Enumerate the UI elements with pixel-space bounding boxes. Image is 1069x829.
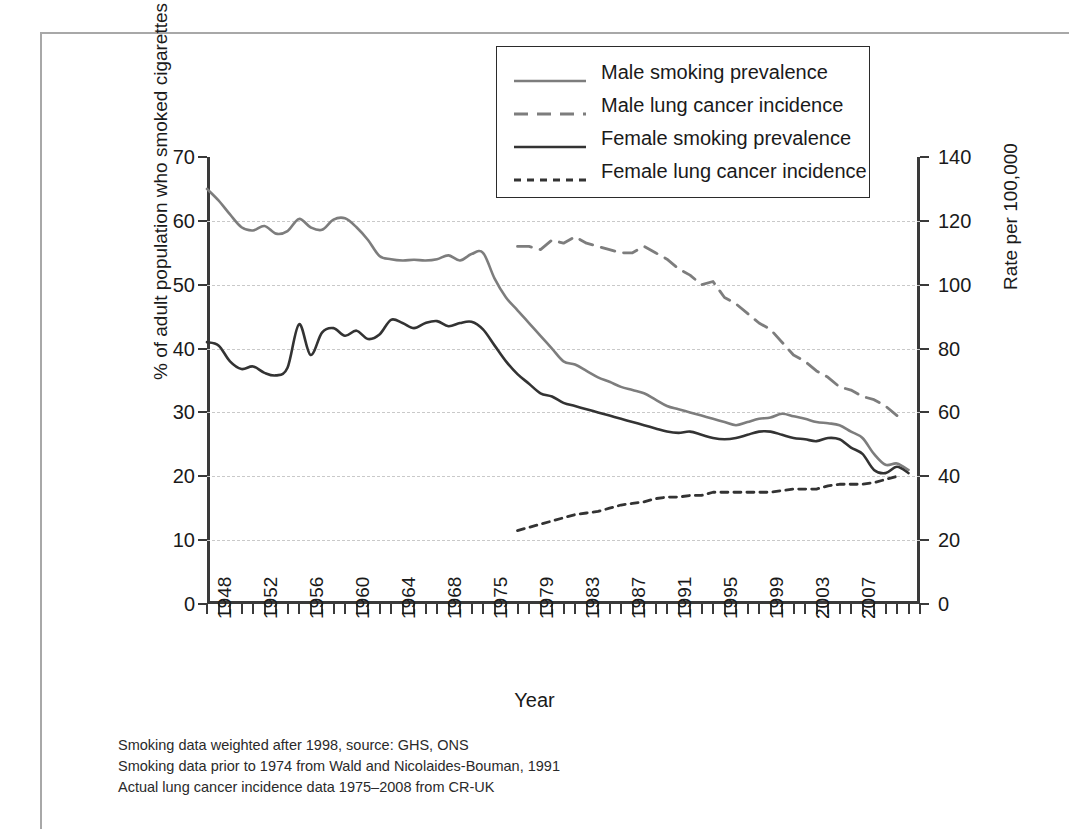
x-tick [287, 604, 289, 614]
x-tick [390, 604, 392, 614]
legend-item[interactable]: Female lung cancer incidence [497, 155, 869, 188]
x-tick [206, 604, 208, 614]
x-tick [436, 604, 438, 614]
y-tick-right [920, 156, 929, 158]
x-tick [252, 604, 254, 614]
x-tick [793, 604, 795, 614]
y-tick-label-right: 60 [938, 401, 960, 424]
y-tick-right [920, 603, 929, 605]
y-tick-left [198, 220, 207, 222]
x-tick [896, 604, 898, 614]
y-tick-right [920, 220, 929, 222]
y-tick-label-right: 140 [938, 146, 971, 169]
x-tick [241, 604, 243, 614]
y-tick-label-right: 20 [938, 529, 960, 552]
x-tick [333, 604, 335, 614]
y-tick-left [198, 411, 207, 413]
x-tick [574, 604, 576, 614]
footnotes: Smoking data weighted after 1998, source… [118, 735, 560, 798]
y-tick-label-left: 40 [173, 337, 195, 360]
y-tick-right [920, 284, 929, 286]
series-line [518, 237, 898, 416]
series-line [207, 189, 909, 470]
y-axis-right-title: Rate per 100,000 [1000, 143, 1022, 290]
legend-label: Female smoking prevalence [601, 127, 851, 150]
y-tick-left [198, 348, 207, 350]
y-tick-label-right: 0 [938, 593, 949, 616]
series-line [518, 476, 898, 530]
x-tick [528, 604, 530, 614]
y-tick-label-right: 100 [938, 273, 971, 296]
y-tick-label-left: 70 [173, 146, 195, 169]
y-tick-label-left: 10 [173, 529, 195, 552]
x-tick [655, 604, 657, 614]
x-tick [712, 604, 714, 614]
legend-item[interactable]: Male smoking prevalence [497, 56, 869, 89]
x-tick [482, 604, 484, 614]
x-tick [425, 604, 427, 614]
y-tick-right [920, 475, 929, 477]
x-tick [517, 604, 519, 614]
y-tick-label-right: 120 [938, 209, 971, 232]
x-tick [471, 604, 473, 614]
top-rule [40, 32, 1069, 34]
y-tick-label-left: 0 [184, 593, 195, 616]
x-tick [379, 604, 381, 614]
x-tick [850, 604, 852, 614]
legend-item[interactable]: Male lung cancer incidence [497, 89, 869, 122]
x-tick [701, 604, 703, 614]
footnote-2: Smoking data prior to 1974 from Wald and… [118, 756, 560, 777]
legend-item[interactable]: Female smoking prevalence [497, 122, 869, 155]
y-tick-right [920, 411, 929, 413]
x-tick [919, 604, 921, 614]
x-tick [620, 604, 622, 614]
legend-label: Male smoking prevalence [601, 61, 828, 84]
y-tick-label-left: 50 [173, 273, 195, 296]
y-axis-left-title: % of adult population who smoked cigaret… [150, 3, 172, 380]
y-tick-left [198, 539, 207, 541]
plot-area: 0102030405060700204060801001201401948195… [207, 157, 920, 604]
x-tick [885, 604, 887, 614]
x-tick [298, 604, 300, 614]
y-tick-label-right: 40 [938, 465, 960, 488]
legend-label: Male lung cancer incidence [601, 94, 843, 117]
y-tick-label-right: 80 [938, 337, 960, 360]
y-tick-label-left: 20 [173, 465, 195, 488]
legend: Male smoking prevalenceMale lung cancer … [496, 46, 870, 198]
y-tick-right [920, 539, 929, 541]
x-tick [747, 604, 749, 614]
y-tick-left [198, 475, 207, 477]
y-tick-label-left: 60 [173, 209, 195, 232]
footnote-1: Smoking data weighted after 1998, source… [118, 735, 560, 756]
y-tick-label-left: 30 [173, 401, 195, 424]
series-line [207, 319, 909, 473]
footnote-3: Actual lung cancer incidence data 1975–2… [118, 777, 560, 798]
y-tick-right [920, 348, 929, 350]
x-axis-title: Year [0, 689, 1069, 712]
x-tick [666, 604, 668, 614]
legend-label: Female lung cancer incidence [601, 160, 867, 183]
series-layer [207, 157, 920, 604]
x-tick [804, 604, 806, 614]
x-tick [344, 604, 346, 614]
y-tick-left [198, 156, 207, 158]
y-tick-left [198, 284, 207, 286]
x-tick [758, 604, 760, 614]
x-tick [609, 604, 611, 614]
x-tick [908, 604, 910, 614]
x-tick [839, 604, 841, 614]
x-tick [563, 604, 565, 614]
figure-root: % of adult population who smoked cigaret… [0, 0, 1069, 829]
